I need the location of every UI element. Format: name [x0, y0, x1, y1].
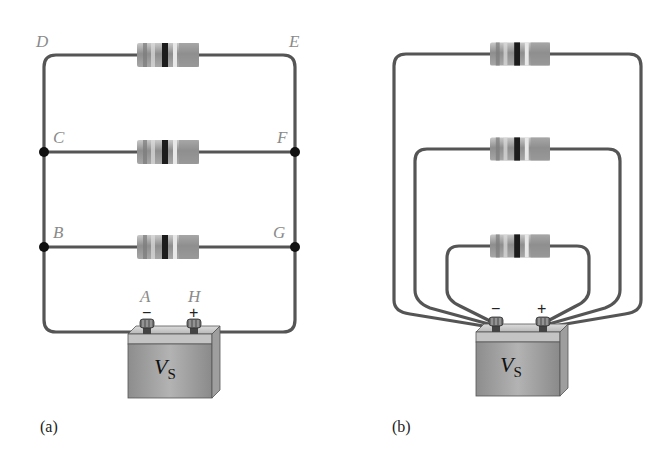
node-c-dot [39, 147, 49, 157]
node-g-dot [290, 242, 300, 252]
resistor-a-top [137, 43, 199, 67]
label-f: F [276, 128, 288, 147]
panel-b: − + VS (b) [392, 42, 641, 436]
plus-sign-a: + [189, 304, 198, 321]
minus-sign-a: − [142, 304, 151, 321]
label-b: B [53, 223, 64, 242]
resistor-b-bottom [490, 234, 550, 257]
wire-a-outer [44, 55, 295, 332]
battery-b: VS [476, 317, 568, 396]
node-f-dot [290, 147, 300, 157]
label-d: D [35, 32, 49, 51]
resistor-a-bottom [137, 235, 199, 259]
caption-a: (a) [40, 418, 58, 436]
wire-b-inner [447, 246, 589, 324]
minus-sign-b: − [491, 300, 500, 317]
battery-subscript-b: S [513, 364, 521, 380]
resistor-b-top [490, 42, 550, 65]
resistor-b-middle [490, 137, 550, 160]
label-g: G [273, 223, 285, 242]
resistor-a-middle [137, 140, 199, 164]
label-e: E [288, 32, 300, 51]
battery-a: VS [128, 319, 220, 398]
plus-sign-b: + [537, 300, 546, 317]
caption-b: (b) [392, 418, 411, 436]
wire-b-outer [394, 54, 641, 328]
panel-a: D E C F B G A H − + VS (a) [35, 32, 300, 436]
label-c: C [53, 128, 65, 147]
parallel-circuit-figure: D E C F B G A H − + VS (a) − + [0, 0, 668, 457]
battery-subscript-a: S [167, 366, 175, 382]
node-b-dot [39, 242, 49, 252]
